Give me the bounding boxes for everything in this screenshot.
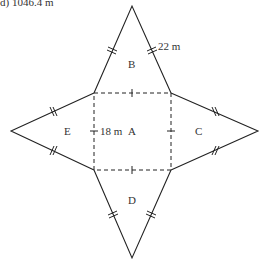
base-side-measurement: 18 m [100, 125, 123, 137]
face-e-triangle [11, 93, 94, 170]
face-label-b: B [128, 58, 135, 70]
face-label-d: D [128, 194, 136, 206]
face-label-e: E [64, 125, 71, 137]
face-c-triangle [171, 93, 258, 170]
face-label-c: C [195, 125, 202, 137]
pyramid-net-diagram: B A C D E 18 m 22 m [0, 0, 260, 263]
face-d-triangle [94, 170, 171, 258]
slant-edge-measurement: 22 m [158, 40, 181, 52]
face-label-a: A [128, 125, 136, 137]
